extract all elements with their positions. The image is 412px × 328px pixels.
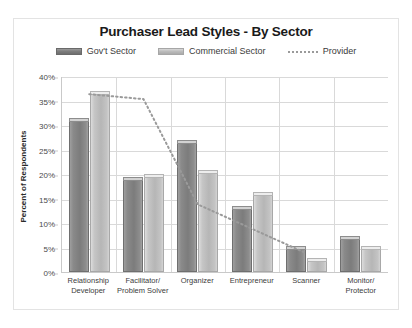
legend-item-govt-sector[interactable]: Gov't Sector <box>56 46 136 56</box>
bar-top-cap <box>144 174 164 178</box>
legend-item-commercial-sector[interactable]: Commercial Sector <box>158 46 266 56</box>
y-axis-tick-label: 5% <box>43 244 55 253</box>
x-axis-label-line: Organizer <box>171 276 224 286</box>
bar-group <box>279 77 333 272</box>
legend-swatch-govt-icon <box>56 48 82 55</box>
chart-title: Purchaser Lead Styles - By Sector <box>14 24 398 39</box>
bar-commercial[interactable] <box>361 248 381 273</box>
bar-top-cap <box>307 258 327 262</box>
legend-label-commercial-sector: Commercial Sector <box>189 46 266 56</box>
bar-group <box>225 77 279 272</box>
y-axis-tick-label: 35% <box>39 97 55 106</box>
bar-group <box>62 77 116 272</box>
y-axis-tick-label: 30% <box>39 122 55 131</box>
y-axis-tick-label: 20% <box>39 171 55 180</box>
x-axis-label-line: Monitor/ <box>335 276 388 286</box>
x-axis-label-line: Problem Solver <box>117 286 170 296</box>
bar-commercial[interactable] <box>253 194 273 272</box>
bar-group <box>334 77 388 272</box>
bar-groups <box>62 77 388 272</box>
bar-govt[interactable] <box>69 120 89 272</box>
x-axis-label: Facilitator/Problem Solver <box>116 276 171 296</box>
bar-top-cap <box>340 236 360 240</box>
y-axis-ticks: 40%35%30%25%20%15%10%5%0% <box>30 77 58 273</box>
y-axis-title: Percent of Respondents <box>16 76 30 276</box>
bar-govt[interactable] <box>340 238 360 272</box>
x-axis-label: Monitor/Protector <box>334 276 389 296</box>
y-axis-tick-label: 0% <box>43 269 55 278</box>
x-axis-label-line: Developer <box>62 286 115 296</box>
x-axis-label-line: Entrepreneur <box>226 276 279 286</box>
bar-commercial[interactable] <box>144 176 164 272</box>
x-axis-label-line: Facilitator/ <box>117 276 170 286</box>
legend-swatch-commercial-icon <box>158 48 184 55</box>
plot-area <box>61 77 388 273</box>
y-axis-tick-label: 25% <box>39 146 55 155</box>
chart-legend: Gov't Sector Commercial Sector Provider <box>14 46 398 56</box>
legend-swatch-provider-icon <box>288 48 318 55</box>
bar-top-cap <box>69 118 89 122</box>
bar-top-cap <box>361 246 381 250</box>
x-axis-label: RelationshipDeveloper <box>61 276 116 296</box>
bar-top-cap <box>232 206 252 210</box>
y-axis-tick-label: 15% <box>39 195 55 204</box>
bar-commercial[interactable] <box>307 260 327 272</box>
x-axis-label: Scanner <box>279 276 334 296</box>
bar-commercial[interactable] <box>198 172 218 272</box>
legend-item-provider[interactable]: Provider <box>288 46 357 56</box>
bar-govt[interactable] <box>286 248 306 273</box>
bar-govt[interactable] <box>123 179 143 272</box>
y-axis-title-text: Percent of Respondents <box>19 130 28 222</box>
plot-area-wrapper: Percent of Respondents 40%35%30%25%20%15… <box>14 64 398 309</box>
bar-group <box>116 77 170 272</box>
bar-top-cap <box>177 140 197 144</box>
x-axis-labels: RelationshipDeveloperFacilitator/Problem… <box>61 276 388 296</box>
bar-govt[interactable] <box>177 142 197 272</box>
bar-govt[interactable] <box>232 208 252 272</box>
x-axis-label: Organizer <box>170 276 225 296</box>
bar-top-cap <box>253 192 273 196</box>
bar-top-cap <box>198 170 218 174</box>
bar-group <box>171 77 225 272</box>
x-axis-label-line: Protector <box>335 286 388 296</box>
x-axis-label-line: Relationship <box>62 276 115 286</box>
bar-commercial[interactable] <box>90 93 110 272</box>
chart-container: Purchaser Lead Styles - By Sector Gov't … <box>13 18 399 310</box>
x-axis-label: Entrepreneur <box>225 276 280 296</box>
legend-label-govt-sector: Gov't Sector <box>87 46 136 56</box>
y-axis-tick-label: 10% <box>39 220 55 229</box>
bar-top-cap <box>123 177 143 181</box>
bar-top-cap <box>90 91 110 95</box>
bar-top-cap <box>286 246 306 250</box>
y-axis-tick-label: 40% <box>39 73 55 82</box>
x-axis-label-line: Scanner <box>280 276 333 286</box>
legend-label-provider: Provider <box>323 46 357 56</box>
